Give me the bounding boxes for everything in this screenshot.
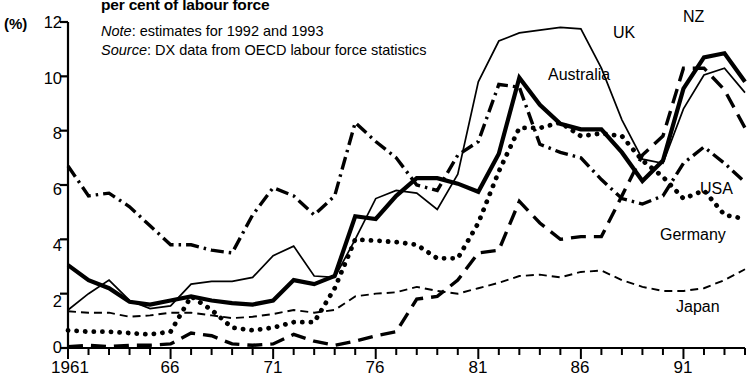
series-line-australia [68,53,745,304]
series-line-uk [68,27,745,310]
series-lines [68,27,745,346]
series-label-japan: Japan [676,298,720,316]
unemployment-line-chart: per cent of labour force Note: estimates… [0,0,749,392]
series-line-usa [68,84,745,252]
series-label-germany: Germany [660,226,726,244]
series-line-japan [68,269,745,318]
series-line-nz [68,68,745,346]
series-label-uk: UK [613,24,635,42]
series-label-nz: NZ [683,8,704,26]
series-label-usa: USA [700,180,733,198]
series-label-australia: Australia [548,66,610,84]
plot-area [0,0,749,392]
